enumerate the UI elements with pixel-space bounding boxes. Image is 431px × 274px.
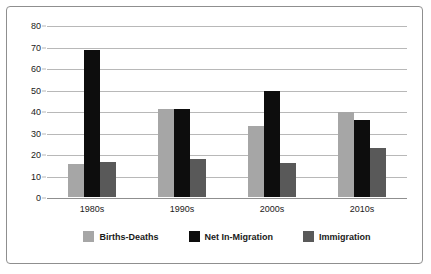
y-axis-tick-label: 80	[31, 22, 41, 31]
y-axis-tick-label: 60	[31, 65, 41, 74]
y-axis-tick-label: 70	[31, 43, 41, 52]
bar[interactable]	[264, 91, 280, 197]
bar[interactable]	[280, 163, 296, 197]
y-axis-tick-mark	[42, 155, 46, 156]
y-axis-tick-mark	[42, 69, 46, 70]
legend-label: Net In-Migration	[205, 232, 274, 242]
bar[interactable]	[190, 159, 206, 197]
y-axis-tick-label: 30	[31, 129, 41, 138]
legend-item[interactable]: Immigration	[303, 231, 371, 242]
bar[interactable]	[354, 120, 370, 197]
bars-layer: 1980s1990s2000s2010s	[47, 26, 407, 198]
legend-color-swatch	[189, 231, 200, 242]
x-axis-line	[47, 198, 407, 199]
bar-group: 1980s	[68, 25, 116, 197]
chart-plot-wrapper: 80706050403020100 1980s1990s2000s2010s B…	[7, 7, 424, 265]
y-axis-tick-label: 10	[31, 172, 41, 181]
y-axis-tick-label: 0	[36, 194, 41, 203]
bar[interactable]	[68, 164, 84, 197]
bar-group: 2010s	[338, 25, 386, 197]
y-axis-tick-mark	[42, 112, 46, 113]
bar[interactable]	[158, 109, 174, 197]
y-axis-tick-mark	[42, 176, 46, 177]
bar[interactable]	[370, 148, 386, 197]
x-axis-category-label: 2000s	[248, 204, 296, 214]
legend-label: Births-Deaths	[99, 232, 158, 242]
legend-label: Immigration	[319, 232, 371, 242]
legend-item[interactable]: Births-Deaths	[83, 231, 158, 242]
bar-group: 2000s	[248, 25, 296, 197]
bar[interactable]	[174, 109, 190, 197]
bar[interactable]	[84, 50, 100, 197]
y-axis-tick-mark	[42, 198, 46, 199]
y-axis-tick-mark	[42, 133, 46, 134]
y-axis-tick-mark	[42, 47, 46, 48]
y-axis-tick-label: 50	[31, 86, 41, 95]
plot-area: 80706050403020100 1980s1990s2000s2010s	[47, 26, 407, 198]
legend-color-swatch	[303, 231, 314, 242]
bar-group: 1990s	[158, 25, 206, 197]
x-axis-category-label: 1990s	[158, 204, 206, 214]
y-axis-tick-mark	[42, 90, 46, 91]
legend-color-swatch	[83, 231, 94, 242]
y-axis-tick-label: 40	[31, 108, 41, 117]
y-axis-tick-label: 20	[31, 151, 41, 160]
bar[interactable]	[248, 126, 264, 197]
chart-frame: 80706050403020100 1980s1990s2000s2010s B…	[6, 6, 423, 264]
bar[interactable]	[338, 112, 354, 197]
x-axis-category-label: 2010s	[338, 204, 386, 214]
chart-legend: Births-DeathsNet In-MigrationImmigration	[47, 231, 407, 242]
legend-item[interactable]: Net In-Migration	[189, 231, 274, 242]
bar[interactable]	[100, 162, 116, 197]
y-axis-tick-mark	[42, 26, 46, 27]
x-axis-category-label: 1980s	[68, 204, 116, 214]
